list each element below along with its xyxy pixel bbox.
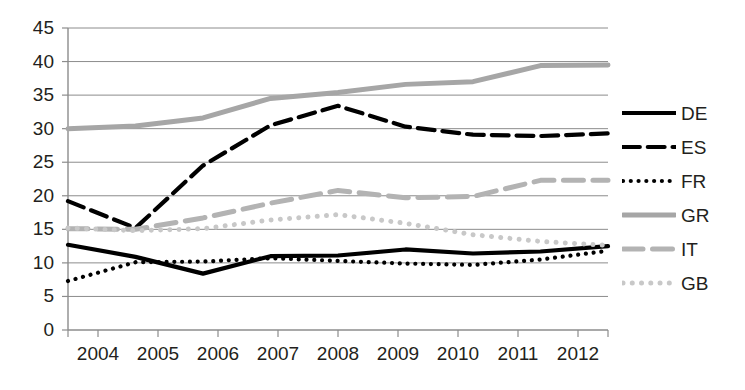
legend-item-it[interactable]: IT: [622, 232, 742, 266]
legend-label: IT: [681, 240, 698, 259]
data-series-group: [68, 65, 608, 281]
legend-swatch-de-icon: [622, 104, 676, 122]
series-line-it: [68, 180, 608, 229]
legend-swatch-gr-icon: [622, 206, 676, 224]
x-tick-label: 2012: [547, 344, 609, 363]
y-tick-label: 0: [8, 320, 54, 339]
y-tick-label: 45: [8, 18, 54, 37]
y-axis-ticks: [62, 28, 68, 330]
legend-item-gr[interactable]: GR: [622, 198, 742, 232]
x-tick-label: 2009: [367, 344, 429, 363]
y-tick-label: 5: [8, 286, 54, 305]
legend-label: GB: [681, 274, 708, 293]
line-chart: 051015202530354045 200420052006200720082…: [0, 0, 745, 390]
legend-label: GR: [681, 206, 710, 225]
legend-label: DE: [681, 104, 707, 123]
axis-lines: [68, 28, 608, 330]
legend-swatch-gb-icon: [622, 274, 676, 292]
legend-item-fr[interactable]: FR: [622, 164, 742, 198]
y-tick-label: 10: [8, 253, 54, 272]
x-tick-label: 2008: [307, 344, 369, 363]
x-tick-label: 2011: [487, 344, 549, 363]
y-tick-label: 30: [8, 119, 54, 138]
legend-item-es[interactable]: ES: [622, 130, 742, 164]
x-tick-label: 2006: [187, 344, 249, 363]
y-tick-label: 25: [8, 152, 54, 171]
legend-item-gb[interactable]: GB: [622, 266, 742, 300]
y-tick-label: 35: [8, 85, 54, 104]
legend-swatch-it-icon: [622, 240, 676, 258]
x-tick-label: 2007: [247, 344, 309, 363]
legend-swatch-fr-icon: [622, 172, 676, 190]
legend-label: FR: [681, 172, 706, 191]
series-line-gb: [68, 215, 608, 246]
y-tick-label: 40: [8, 52, 54, 71]
x-axis-ticks: [68, 330, 608, 337]
y-tick-label: 15: [8, 219, 54, 238]
legend-label: ES: [681, 138, 706, 157]
chart-legend: DEESFRGRITGB: [622, 96, 742, 300]
x-tick-label: 2005: [127, 344, 189, 363]
legend-item-de[interactable]: DE: [622, 96, 742, 130]
x-tick-label: 2010: [427, 344, 489, 363]
y-tick-label: 20: [8, 186, 54, 205]
x-tick-label: 2004: [67, 344, 129, 363]
series-line-gr: [68, 65, 608, 129]
legend-swatch-es-icon: [622, 138, 676, 156]
